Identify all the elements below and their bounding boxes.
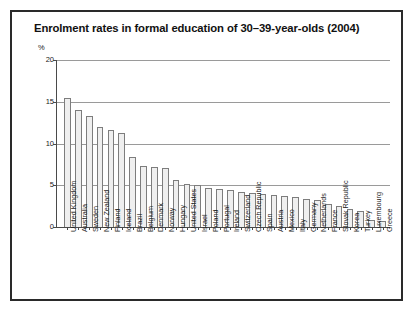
x-axis-tick-mark — [133, 227, 134, 230]
x-axis-category-label: Sweden — [92, 206, 99, 232]
y-axis-tick-labels: 05101520 — [38, 60, 54, 228]
x-axis-tick-mark — [89, 227, 90, 230]
x-axis-category-label: Korea — [353, 213, 360, 232]
x-axis-category-label: Australia — [81, 204, 88, 232]
x-axis-tick-mark — [263, 227, 264, 230]
x-axis-category-label: Greece — [386, 208, 393, 232]
x-axis-tick-mark — [252, 227, 253, 230]
x-axis-category-label: Czech Republic — [255, 182, 262, 232]
x-axis-tick-mark — [122, 227, 123, 230]
x-axis-tick-mark — [383, 227, 384, 230]
x-axis-tick-mark — [339, 227, 340, 230]
x-axis-tick-mark — [307, 227, 308, 230]
x-axis-tick-mark — [350, 227, 351, 230]
x-axis-tick-mark — [176, 227, 177, 230]
x-axis-category-label: Ireland — [233, 210, 240, 232]
x-axis-tick-mark — [100, 227, 101, 230]
x-axis-tick-mark — [187, 227, 188, 230]
x-axis-category-label: Netherlands — [320, 193, 327, 232]
x-axis-category-label: Mexico — [288, 209, 295, 232]
x-axis-tick-mark — [285, 227, 286, 230]
x-axis-tick-mark — [361, 227, 362, 230]
x-axis-category-label: Finland — [114, 208, 121, 232]
x-axis-category-label: Hungary — [179, 205, 186, 232]
x-axis-category-label: Slovak Republic — [342, 180, 349, 232]
x-axis-category-label: New Zealand — [103, 190, 110, 232]
x-axis-category-label: United Kingdom — [70, 181, 77, 232]
x-axis-category-label: Luxembourg — [375, 192, 382, 232]
x-axis-category-label: Belgium — [147, 206, 154, 232]
x-axis-category-label: Israel — [201, 214, 208, 232]
chart-title: Enrolment rates in formal education of 3… — [34, 22, 359, 34]
x-axis-category-label: Spain — [266, 214, 273, 232]
x-axis-category-label: France — [331, 210, 338, 232]
x-axis-category-labels: United KingdomAustraliaSwedenNew Zealand… — [56, 230, 390, 300]
y-axis-unit-label: % — [38, 43, 45, 52]
x-axis-category-label: Austria — [277, 210, 284, 232]
x-axis-tick-mark — [274, 227, 275, 230]
x-axis-category-label: Denmark — [157, 203, 164, 232]
x-axis-tick-mark — [220, 227, 221, 230]
x-axis-tick-mark — [198, 227, 199, 230]
x-axis-tick-mark — [111, 227, 112, 230]
x-axis-tick-mark — [296, 227, 297, 230]
x-axis-category-label: Germany — [310, 202, 317, 232]
x-axis-category-label: Switzerland — [244, 195, 251, 232]
x-axis-category-label: Norway — [168, 208, 175, 232]
x-axis-category-label: Poland — [212, 210, 219, 232]
x-axis-tick-mark — [209, 227, 210, 230]
x-axis-category-label: Italy — [299, 219, 306, 232]
x-axis-tick-mark — [372, 227, 373, 230]
x-axis-category-label: United States — [190, 189, 197, 232]
chart-figure: Enrolment rates in formal education of 3… — [10, 10, 403, 301]
x-axis-category-label: Portugal — [223, 205, 230, 232]
x-axis-category-label: Iceland — [125, 209, 132, 232]
x-axis-tick-mark — [144, 227, 145, 230]
x-axis-category-label: Brazil — [136, 214, 143, 232]
x-axis-category-label: Turkey — [364, 210, 371, 232]
